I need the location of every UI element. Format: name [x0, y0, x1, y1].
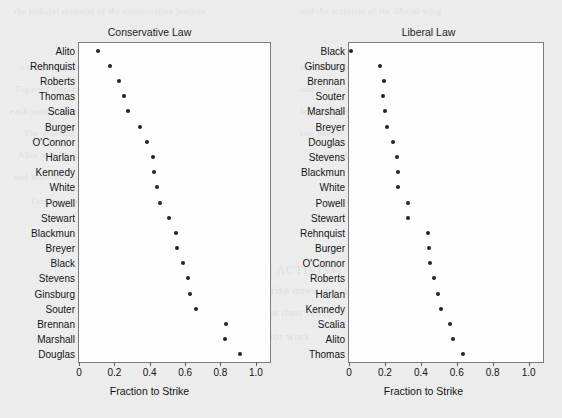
data-point	[426, 231, 430, 235]
x-axis-tick-label: 0.4	[414, 367, 428, 378]
data-point	[428, 261, 432, 265]
x-axis-tick	[256, 362, 257, 366]
data-point	[427, 246, 431, 250]
y-axis-tick-label: Rehnquist	[30, 60, 75, 71]
data-point	[167, 216, 171, 220]
x-axis-tick	[529, 362, 530, 366]
data-point	[436, 292, 440, 296]
data-point	[391, 140, 395, 144]
y-axis-tick-label: Ginsburg	[304, 60, 345, 71]
data-point	[151, 155, 155, 159]
y-axis-tick-label: Breyer	[316, 121, 345, 132]
y-axis-tick-label: Alito	[56, 45, 75, 56]
y-axis-tick-label: Ginsburg	[34, 288, 75, 299]
y-axis-tick-label: Stevens	[39, 273, 75, 284]
y-axis-tick-label: O'Connor	[303, 258, 346, 269]
data-point	[461, 352, 465, 356]
y-axis-tick-label: Black	[51, 258, 75, 269]
data-point	[432, 276, 436, 280]
data-point	[108, 64, 112, 68]
y-axis-tick-label: White	[49, 182, 75, 193]
y-axis-tick-label: Powell	[46, 197, 75, 208]
data-point	[451, 337, 455, 341]
data-point	[448, 322, 452, 326]
y-axis-tick-label: Souter	[316, 91, 345, 102]
x-axis-tick-label: 0.6	[450, 367, 464, 378]
plot-area-liberal: BlackGinsburgBrennanSouterMarshallBreyer…	[348, 42, 544, 363]
x-axis-tick-label: 0.4	[143, 367, 157, 378]
x-axis-tick-label: 0.2	[107, 367, 121, 378]
y-axis-tick-label: Harlan	[46, 151, 75, 162]
x-axis-tick-label: 1.0	[249, 367, 263, 378]
x-axis-tick	[493, 362, 494, 366]
panel-title-conservative: Conservative Law	[0, 26, 281, 38]
panel-conservative-law: Conservative Law AlitoRehnquistRobertsTh…	[0, 0, 281, 418]
y-axis-tick-label: Blackmun	[301, 167, 345, 178]
data-point	[117, 79, 121, 83]
y-axis-tick-label: Burger	[45, 121, 75, 132]
data-point	[406, 201, 410, 205]
data-point	[238, 352, 242, 356]
data-point	[174, 231, 178, 235]
data-point	[396, 185, 400, 189]
data-point	[194, 307, 198, 311]
y-axis-tick-label: Kennedy	[306, 303, 345, 314]
y-axis-tick-label: Kennedy	[36, 167, 75, 178]
data-point	[188, 292, 192, 296]
y-axis-tick-label: Breyer	[46, 243, 75, 254]
panel-liberal-law: Liberal Law BlackGinsburgBrennanSouterMa…	[281, 0, 562, 418]
plot-area-conservative: AlitoRehnquistRobertsThomasScaliaBurgerO…	[78, 42, 271, 363]
y-axis-tick-label: Brennan	[307, 75, 345, 86]
data-point	[223, 337, 227, 341]
plot-inner-conservative: AlitoRehnquistRobertsThomasScaliaBurgerO…	[79, 43, 270, 362]
x-axis-tick	[150, 362, 151, 366]
plot-inner-liberal: BlackGinsburgBrennanSouterMarshallBreyer…	[349, 43, 543, 362]
y-axis-tick-label: Scalia	[48, 106, 75, 117]
y-axis-tick-label: Souter	[46, 303, 75, 314]
y-axis-tick-label: Douglas	[308, 136, 345, 147]
y-axis-tick-label: Harlan	[316, 288, 345, 299]
y-axis-tick-label: Blackmun	[31, 227, 75, 238]
figure-container: Conservative Law AlitoRehnquistRobertsTh…	[0, 0, 562, 418]
data-point	[122, 94, 126, 98]
y-axis-tick-label: Thomas	[39, 91, 75, 102]
x-axis-tick	[185, 362, 186, 366]
data-point	[396, 170, 400, 174]
x-axis-tick-label: 0	[76, 367, 82, 378]
y-axis-tick-label: Alito	[326, 334, 345, 345]
y-axis-tick-label: White	[319, 182, 345, 193]
x-axis-tick	[349, 362, 350, 366]
y-axis-tick-label: Stewart	[311, 212, 345, 223]
data-point	[381, 94, 385, 98]
data-point	[138, 125, 142, 129]
data-point	[383, 109, 387, 113]
x-axis-tick-label: 1.0	[522, 367, 536, 378]
x-axis-tick	[79, 362, 80, 366]
y-axis-tick-label: Marshall	[37, 334, 75, 345]
y-axis-tick-label: Roberts	[310, 273, 345, 284]
y-axis-tick-label: Brennan	[37, 319, 75, 330]
y-axis-tick-label: Marshall	[307, 106, 345, 117]
y-axis-tick-label: Black	[321, 45, 345, 56]
data-point	[96, 49, 100, 53]
xaxis-title-conservative: Fraction to Strike	[0, 385, 281, 397]
y-axis-tick-label: Stewart	[41, 212, 75, 223]
x-axis-tick	[220, 362, 221, 366]
y-axis-tick-label: Stevens	[309, 151, 345, 162]
xaxis-title-liberal: Fraction to Strike	[281, 385, 562, 397]
y-axis-tick-label: Douglas	[38, 349, 75, 360]
panel-title-liberal: Liberal Law	[281, 26, 562, 38]
y-axis-tick-label: Burger	[315, 243, 345, 254]
data-point	[349, 49, 353, 53]
data-point	[158, 201, 162, 205]
y-axis-tick-label: Powell	[316, 197, 345, 208]
x-axis-tick	[421, 362, 422, 366]
data-point	[186, 276, 190, 280]
data-point	[181, 261, 185, 265]
data-point	[175, 246, 179, 250]
data-point	[378, 64, 382, 68]
data-point	[152, 170, 156, 174]
data-point	[382, 79, 386, 83]
data-point	[224, 322, 228, 326]
data-point	[395, 155, 399, 159]
